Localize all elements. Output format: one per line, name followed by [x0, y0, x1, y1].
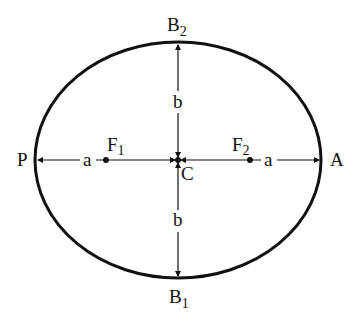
- ellipse-diagram: B2 B1 P A C F1 F2 a a b b: [0, 0, 359, 320]
- focus-right-label: F2: [232, 134, 250, 158]
- center-label: C: [181, 163, 194, 184]
- semi-minor-bottom-label: b: [173, 209, 183, 230]
- left-vertex-label: P: [17, 149, 28, 170]
- semi-minor-top-label: b: [173, 91, 183, 112]
- semi-major-left-label: a: [83, 149, 92, 170]
- semi-major-right-label: a: [264, 149, 273, 170]
- top-vertex-label: B2: [167, 14, 187, 39]
- right-vertex-label: A: [330, 149, 344, 170]
- focus-left-label: F1: [107, 134, 125, 158]
- bottom-vertex-label: B1: [169, 286, 189, 311]
- focus-left-point: [103, 157, 109, 163]
